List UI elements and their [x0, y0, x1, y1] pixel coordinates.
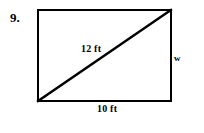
- diagonal-length-label: 12 ft: [81, 44, 101, 54]
- base-length-label: 10 ft: [97, 104, 117, 114]
- figure-canvas: 9. 12 ft 10 ft w: [0, 0, 204, 133]
- width-variable-label: w: [174, 54, 181, 63]
